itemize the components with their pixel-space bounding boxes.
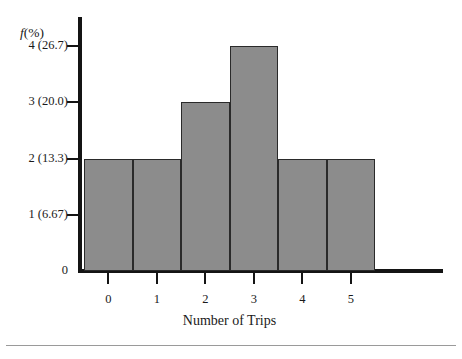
- x-tick-mark: [301, 273, 303, 284]
- x-tick-mark: [156, 273, 158, 284]
- y-tick-label: 1 (6.67): [28, 208, 68, 220]
- x-tick-label: 0: [88, 292, 128, 306]
- y-tick-mark: [67, 214, 79, 216]
- bar: [327, 159, 376, 271]
- x-tick-mark: [204, 273, 206, 284]
- x-tick-label: 5: [331, 292, 371, 306]
- y-tick-mark: [67, 158, 79, 160]
- x-tick-label: 4: [282, 292, 322, 306]
- y-tick-label: 2 (13.3): [28, 152, 68, 164]
- y-tick-label: 0: [62, 264, 68, 276]
- bar: [230, 46, 279, 271]
- footer-divider: [6, 345, 456, 346]
- x-tick-mark: [253, 273, 255, 284]
- x-axis-title: Number of Trips: [84, 313, 375, 329]
- x-tick-mark: [350, 273, 352, 284]
- y-tick-mark: [67, 45, 79, 47]
- y-axis-line: [78, 17, 82, 273]
- bar-series: [84, 18, 375, 271]
- histogram-figure: f(%) 01 (6.67)2 (13.3)3 (20.0)4 (26.7) 0…: [0, 0, 462, 359]
- x-tick-mark: [107, 273, 109, 284]
- bar: [181, 102, 230, 271]
- y-tick-label: 4 (26.7): [28, 39, 68, 51]
- x-tick-label: 1: [137, 292, 177, 306]
- bar: [84, 159, 133, 271]
- bar: [133, 159, 182, 271]
- x-tick-label: 2: [185, 292, 225, 306]
- y-tick-label: 3 (20.0): [28, 95, 68, 107]
- bar: [278, 159, 327, 271]
- x-tick-label: 3: [234, 292, 274, 306]
- y-tick-mark: [67, 101, 79, 103]
